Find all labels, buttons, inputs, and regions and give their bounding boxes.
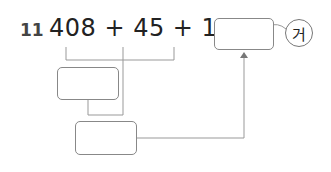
problem-number: 11: [20, 20, 44, 40]
first-sum-box[interactable]: [57, 67, 119, 100]
second-sum-box[interactable]: [75, 121, 137, 155]
answer-box[interactable]: [214, 18, 274, 50]
label-circle: 거: [285, 19, 313, 47]
